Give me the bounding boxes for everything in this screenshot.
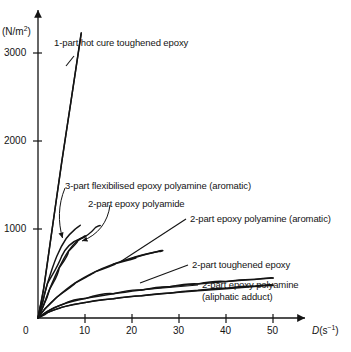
annotation-2part-epoxy-polyamine-aliphatic-line2: (aliphatic adduct): [202, 291, 273, 303]
annotation-1part-hot-cure-toughened-epoxy: 1-part hot cure toughened epoxy: [54, 37, 188, 49]
x-tick-label-30: 30: [173, 325, 184, 336]
x-tick-label-40: 40: [220, 325, 231, 336]
curve-3part-flexibilised-epoxy-polyamine-aromatic: [38, 226, 100, 318]
leader-2part-toughened-epoxy: [140, 265, 188, 283]
x-tick-label-10: 10: [79, 325, 90, 336]
curve-2-part-epoxy-polyamine-aromatic: [38, 251, 160, 318]
x-axis-title: D(s−1): [312, 325, 339, 336]
x-tick-label-50: 50: [267, 325, 278, 336]
y-axis-title: (N/m2): [2, 26, 31, 37]
annotation-2part-epoxy-polyamide: 2-part epoxy polyamide: [88, 198, 185, 210]
curve-2part-epoxy-polyamine-aromatic: [38, 250, 163, 318]
annotation-2part-epoxy-polyamine-aliphatic-line1: 2-part epoxy polyamine: [202, 279, 299, 291]
curve-1-part-hot-cure-toughened-epoxy: [38, 33, 81, 318]
y-tick-label-3000: 3000: [4, 47, 26, 58]
x-tick-label-0: 0: [23, 325, 29, 336]
y-axis-title-text: (N/m: [2, 26, 24, 37]
annotation-2part-toughened-epoxy: 2-part toughened epoxy: [192, 259, 290, 271]
leader-1part-hot-cure: [66, 56, 74, 66]
annotation-2part-epoxy-polyamine-aromatic: 2-part epoxy polyamine (aromatic): [190, 213, 331, 225]
chart-plot-area: [0, 0, 351, 352]
y-tick-label-1000: 1000: [4, 223, 26, 234]
x-axis-title-unit: (s: [319, 325, 327, 336]
rheology-chart-figure: (N/m2) D(s−1) 3000 2000 1000 0 10 20 30 …: [0, 0, 351, 352]
y-tick-label-2000: 2000: [4, 135, 26, 146]
leader-2part-polyamine-aromatic: [120, 219, 186, 262]
y-axis-title-close: ): [27, 26, 30, 37]
annotation-3part-flexibilised-epoxy-polyamine: 3-part flexibilised epoxy polyamine (aro…: [65, 180, 251, 192]
x-tick-label-20: 20: [126, 325, 137, 336]
x-axis-title-close: ): [335, 325, 338, 336]
leader-3part-flexibilised: [59, 188, 65, 238]
